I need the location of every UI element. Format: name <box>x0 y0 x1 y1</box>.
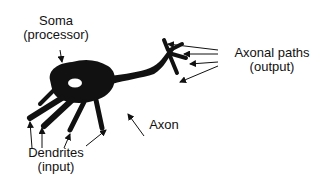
soma-label-subtitle: (processor) <box>12 28 100 42</box>
neuron-diagram: Soma (processor) Axonal paths (output) A… <box>0 0 327 189</box>
soma-label-title: Soma <box>12 14 100 28</box>
dendrites-label-subtitle: (input) <box>20 160 92 174</box>
axon-shape <box>110 40 186 84</box>
dendrites-label: Dendrites (input) <box>20 146 92 174</box>
axonal-paths-label-title: Axonal paths <box>222 46 322 60</box>
axon-label-title: Axon <box>144 118 184 132</box>
axon-label: Axon <box>144 118 184 132</box>
axonal-paths-label: Axonal paths (output) <box>222 46 322 74</box>
dendrites-label-title: Dendrites <box>20 146 92 160</box>
axonal-paths-label-subtitle: (output) <box>222 60 322 74</box>
soma-label: Soma (processor) <box>12 14 100 42</box>
